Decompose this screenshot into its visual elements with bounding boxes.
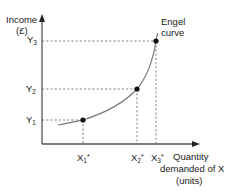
point-1 [80, 117, 85, 122]
axes [42, 20, 194, 144]
y-axis-arrow-icon [39, 14, 45, 22]
y-axis-label-line1: Income [6, 14, 37, 25]
engel-curve-line [58, 33, 158, 125]
x-axis-label-line3: (units) [176, 175, 202, 186]
y-tick-3: Y3 [27, 34, 37, 48]
curve-label-line2: curve [161, 27, 184, 38]
curve-label-line1: Engel [161, 16, 185, 27]
guide-lines [42, 41, 156, 144]
y-tick-2: Y2 [26, 83, 36, 97]
point-3 [153, 38, 158, 43]
y-tick-1: Y1 [26, 114, 36, 128]
point-2 [134, 86, 139, 91]
x-axis-label-line1: Quantity [173, 151, 208, 162]
y-axis-label-line2: (£) [16, 25, 28, 36]
x-axis-arrow-icon [192, 141, 200, 147]
x-axis-label-line2: demanded of X [160, 163, 224, 174]
x-tick-1: X1* [77, 151, 90, 166]
x-tick-2: X2* [131, 151, 144, 166]
